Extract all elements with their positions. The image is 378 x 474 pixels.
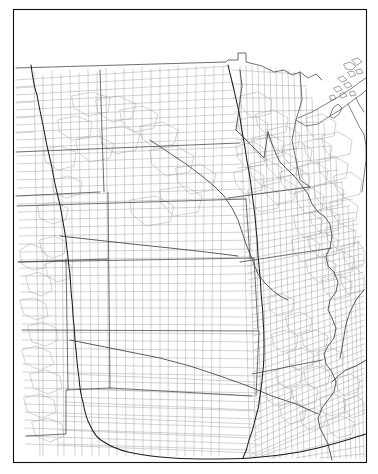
- map-canvas: [0, 0, 378, 474]
- map-figure: [0, 0, 378, 474]
